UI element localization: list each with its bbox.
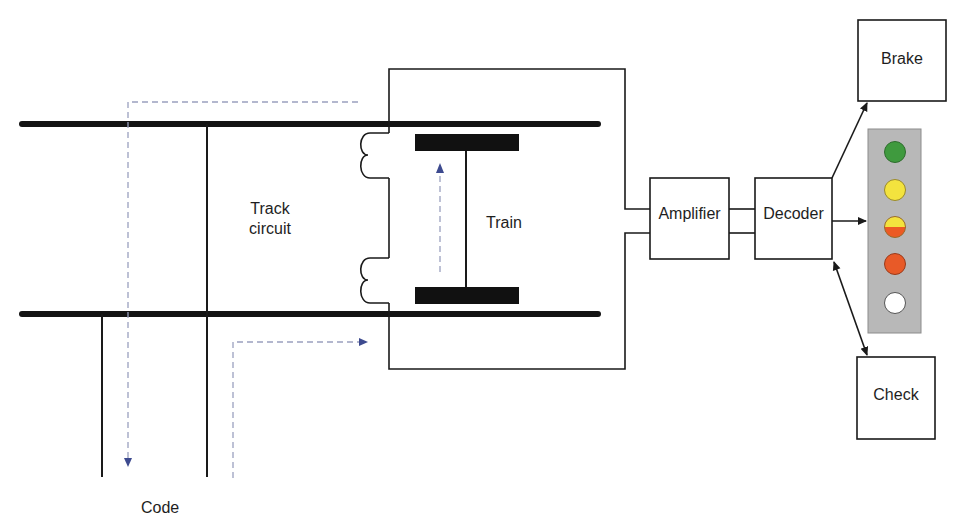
code-label: Code	[141, 498, 179, 518]
track-circuit-label-line1: Track	[249, 199, 291, 219]
bottom-pickup-coil-icon	[361, 258, 389, 303]
train-signal-flow	[436, 163, 444, 272]
yellow-red-lamp-icon	[885, 217, 906, 238]
green-lamp-icon	[885, 142, 906, 163]
top-pickup-coil-icon	[361, 133, 389, 178]
track-circuit-label-line2: circuit	[249, 219, 291, 239]
decoder-check-arrow	[834, 262, 867, 355]
track-circuit-diagram	[0, 0, 958, 526]
code-flow-down	[124, 102, 358, 467]
decoder-to-brake-arrow	[832, 103, 867, 178]
train-label: Train	[486, 213, 522, 233]
check-label: Check	[857, 357, 935, 433]
decoder-label: Decoder	[755, 178, 832, 250]
red-lamp-icon	[885, 254, 906, 275]
cab-signal-panel	[868, 129, 921, 333]
amplifier-label: Amplifier	[650, 178, 729, 250]
yellow-lamp-icon	[885, 180, 906, 201]
brake-label: Brake	[858, 20, 946, 98]
white-lamp-icon	[885, 293, 906, 314]
code-flow-right	[233, 338, 368, 478]
track-circuit-label: Track circuit	[249, 199, 291, 239]
